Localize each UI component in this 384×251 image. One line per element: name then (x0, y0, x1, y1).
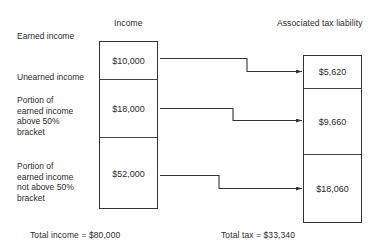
arrow-1 (160, 59, 302, 72)
arrow-2 (160, 109, 302, 121)
total-tax: Total tax = $33,340 (221, 230, 295, 241)
arrow-3 (160, 176, 302, 189)
total-income: Total income = $80,000 (30, 230, 120, 241)
connector-arrows (0, 0, 384, 251)
